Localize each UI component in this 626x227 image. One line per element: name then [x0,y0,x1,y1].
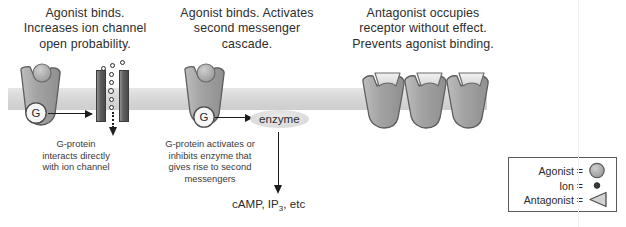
legend-label-ion: Ion = [559,180,583,192]
ion-icon [108,88,114,94]
channel-subunit-right [119,70,129,122]
arrow-gprotein-to-channel [48,113,92,114]
second-messengers-label: cAMP, IP3, etc [232,197,305,213]
g-protein-label: G [200,111,209,123]
ion-icon [110,63,115,68]
receptor-antagonist-3 [442,70,494,130]
triangle-icon [588,191,610,208]
legend-label-antagonist: Antagonist = [524,194,583,206]
legend-row-antagonist: Antagonist = [524,191,610,208]
channel-subunit-left [96,70,106,122]
panel-heading-metabotropic: Agonist binds. Activates second messenge… [152,6,342,52]
agonist-molecule-icon [33,64,51,82]
messengers-pre: cAMP, IP [232,197,279,210]
diagram-canvas: Agonist binds. Increases ion channel ope… [0,0,626,227]
enzyme-label: enzyme [250,110,309,128]
legend-label-agonist: Agonist = [539,165,583,177]
arrow-gprotein-to-enzyme [215,117,252,118]
messengers-post: , etc [283,197,305,210]
g-protein-label: G [32,107,41,119]
agonist-molecule-icon [197,64,215,82]
panel-heading-ionotropic: Agonist binds. Increases ion channel ope… [0,6,170,52]
page-edge-line [578,0,579,227]
panel-heading-antagonist: Antagonist occupies receptor without eff… [328,6,518,52]
ion-icon [101,66,106,71]
g-protein-metabotropic: G [192,105,216,129]
ion-icon [120,60,125,65]
legend-box: Agonist = Ion = Antagonist = [508,157,617,212]
panel-caption-ionotropic: G-protein interacts directly with ion ch… [6,138,146,173]
g-protein-ionotropic: G [24,101,48,125]
panel-caption-metabotropic: G-protein activates or inhibits enzyme t… [140,138,280,184]
arrow-ion-flux [112,112,114,128]
